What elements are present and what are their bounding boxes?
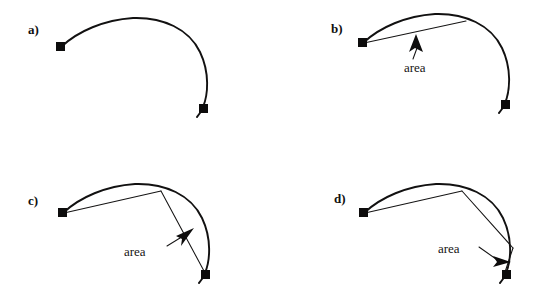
panel-b-area-leader [413, 48, 417, 59]
panel-a-end-marker [199, 104, 208, 113]
panel-c-label: c) [28, 193, 38, 208]
panel-b-end-marker [501, 100, 510, 109]
figure-canvas: a) b) area c) area d) area [0, 0, 546, 288]
panel-b-area-label: area [404, 60, 426, 75]
panel-b: b) area [331, 14, 510, 113]
panel-d-area-leader [479, 247, 496, 259]
panel-d-chord-3 [505, 248, 513, 272]
panel-d-label: d) [334, 191, 346, 206]
panel-c-area-leader [167, 238, 180, 246]
panel-a-label: a) [28, 22, 39, 37]
panel-b-start-marker [358, 38, 367, 47]
panel-b-label: b) [331, 21, 343, 36]
panel-c-chord-2 [161, 191, 204, 271]
panel-a-start-marker [56, 42, 65, 51]
panel-c-area-label: area [124, 244, 146, 259]
panel-c-start-marker [58, 208, 67, 217]
panel-d-end-marker [502, 270, 511, 279]
panel-c: c) area [28, 184, 210, 283]
panel-a: a) [28, 18, 208, 117]
panel-d-area-label: area [438, 241, 460, 256]
panel-d: d) area [334, 184, 513, 283]
panel-a-curve [61, 18, 207, 117]
panel-c-end-marker [201, 270, 210, 279]
panel-c-area-arrowhead [176, 228, 194, 246]
panel-b-curve [363, 14, 509, 113]
panel-d-start-marker [359, 208, 368, 217]
panel-d-curve [364, 184, 510, 283]
